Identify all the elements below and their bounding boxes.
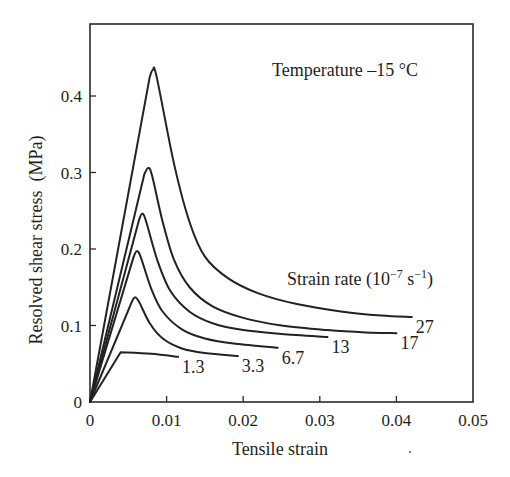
x-tick-label: 0.05 (458, 411, 488, 430)
curve-label: 3.3 (242, 356, 265, 376)
y-tick-label: 0.3 (61, 164, 82, 183)
x-tick-label: 0.02 (228, 411, 258, 430)
curve-label: 27 (416, 317, 434, 337)
stress-strain-chart: 00.010.020.030.040.05 00.10.20.30.4 2717… (0, 0, 510, 477)
y-tick-label: 0 (74, 393, 83, 412)
stray-dot (409, 451, 411, 453)
curve-label: 17 (400, 333, 418, 353)
curve-label: 13 (331, 337, 349, 357)
legend-title-close: ) (427, 269, 433, 290)
legend-title-unit: s (403, 269, 415, 289)
curve-strain-rate-27 (90, 67, 412, 402)
legend-title-text: Strain rate (10 (287, 269, 390, 290)
legend-title-unit-exponent: −1 (414, 267, 427, 281)
x-tick-label: 0.01 (152, 411, 182, 430)
temperature-annotation: Temperature –15 °C (272, 60, 418, 80)
y-tick-label: 0.1 (61, 317, 82, 336)
x-tick-label: 0.03 (305, 411, 335, 430)
curve-strain-rate-6-7 (90, 251, 278, 402)
strain-rate-legend-title: Strain rate (10−7 s−1) (287, 267, 433, 290)
y-tick-label: 0.2 (61, 240, 82, 259)
curve-label: 6.7 (282, 348, 305, 368)
curve-label: 1.3 (182, 357, 205, 377)
x-tick-label: 0 (86, 411, 95, 430)
x-axis: 00.010.020.030.040.05 (86, 396, 488, 430)
x-tick-label: 0.04 (382, 411, 412, 430)
curve-strain-rate-13 (90, 214, 327, 402)
y-axis-title: Resolved shear stress (MPa) (26, 136, 47, 345)
y-tick-label: 0.4 (61, 87, 83, 106)
curves (90, 67, 412, 402)
x-axis-title: Tensile strain (232, 439, 328, 459)
legend-title-exponent: −7 (390, 267, 403, 281)
